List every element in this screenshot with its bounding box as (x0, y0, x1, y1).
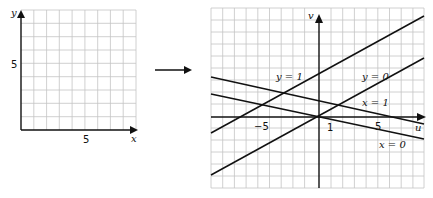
left-grid (21, 10, 136, 130)
label-x-equals-0: x = 0 (379, 139, 406, 150)
u-axis-label: u (415, 122, 421, 133)
label-y-equals-1: y = 1 (275, 71, 303, 82)
x-tick-label: 5 (83, 134, 89, 145)
u-axis-arrow-icon (417, 113, 426, 121)
label-x-equals-1: x = 1 (362, 97, 389, 108)
right-plot: v u −5 1 5 y = 1 y = 0 x = 1 x = 0 (211, 8, 426, 188)
right-grid (211, 8, 424, 188)
y-axis-arrow-icon (17, 10, 25, 18)
y-tick-label: 5 (11, 59, 17, 70)
label-y-equals-0: y = 0 (361, 71, 389, 82)
diagram-canvas: y 5 5 x (0, 0, 433, 198)
u-tick-5: 5 (375, 121, 381, 132)
left-plot: y 5 5 x (10, 7, 138, 145)
v-axis-arrow-icon (315, 14, 323, 23)
u-tick-1: 1 (327, 122, 333, 133)
right-arrow-icon (184, 66, 192, 74)
line-y-equals-1 (211, 16, 424, 133)
y-axis-label: y (10, 7, 17, 18)
mapping-arrow (155, 66, 192, 74)
u-tick-minus-5: −5 (254, 121, 269, 132)
x-axis-label: x (131, 133, 137, 144)
v-axis-label: v (308, 10, 314, 21)
